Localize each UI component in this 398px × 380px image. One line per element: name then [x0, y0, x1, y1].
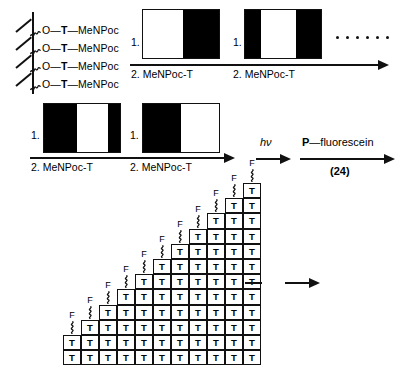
dash-icon — [245, 282, 262, 284]
mask-segment-open — [181, 104, 219, 152]
squiggle-linker-icon — [139, 259, 150, 276]
array-cell: T — [117, 320, 135, 335]
compound-number-label: (24) — [330, 165, 350, 177]
fluorescein-cap-label: F — [137, 250, 151, 259]
reaction-arrow-icon — [378, 60, 389, 70]
array-cell: T — [153, 350, 171, 365]
mask-segment-blocked — [108, 104, 120, 152]
fluorescein-cap-label: F — [191, 205, 205, 214]
fluorescein-cap-label: F — [155, 235, 169, 244]
array-cell: T — [207, 244, 225, 259]
array-cell: T — [207, 335, 225, 350]
support-chain-label: O—T—MeNPoc — [42, 25, 119, 36]
reaction-rule-row-2 — [30, 157, 226, 159]
mask-segment-open — [77, 104, 107, 152]
fluorescein-cap-label: F — [209, 189, 223, 198]
array-cell: T — [225, 229, 243, 244]
photolithographic-mask — [142, 103, 220, 153]
array-cell: T — [153, 274, 171, 289]
reaction-arrow-icon — [224, 153, 235, 163]
solid-support-structure: O—T—MeNPoc O—T—MeNPoc O—T—MeNPoc O—T—MeN… — [8, 12, 128, 94]
array-cell: T — [189, 244, 207, 259]
array-cell: T — [225, 213, 243, 228]
support-chain-row: O—T—MeNPoc — [30, 58, 119, 74]
array-cell: T — [135, 350, 153, 365]
array-cell: T — [135, 305, 153, 320]
array-cell: T — [243, 289, 261, 304]
squiggle-linker-icon — [247, 168, 258, 185]
mask-segment-blocked — [245, 10, 261, 58]
squiggle-linker-icon — [103, 290, 114, 307]
reaction-arrow-icon — [280, 154, 291, 164]
support-chain-label: O—T—MeNPoc — [42, 79, 119, 90]
array-cell: T — [225, 350, 243, 365]
squiggle-linker-icon — [175, 229, 186, 246]
photolysis-label: hν — [260, 136, 272, 148]
array-cell: T — [99, 335, 117, 350]
fluorescein-cap-label: F — [101, 281, 115, 290]
array-cell: T — [189, 274, 207, 289]
step-4-number: 1. — [130, 129, 139, 141]
array-cell: T — [171, 305, 189, 320]
array-cell: T — [117, 350, 135, 365]
step-4-reagent: 2. MeNPoc-T — [130, 161, 192, 173]
mask-segment-open — [143, 10, 183, 58]
step-1-reagent: 2. MeNPoc-T — [131, 68, 193, 80]
step-1-number: 1. — [131, 36, 140, 48]
array-cell: T — [243, 350, 261, 365]
squiggle-linker-icon — [229, 183, 240, 200]
squiggle-linker-icon — [30, 43, 41, 53]
array-cell: T — [189, 320, 207, 335]
array-cell: T — [225, 274, 243, 289]
array-cell: T — [171, 274, 189, 289]
fluorescein-text: —fluorescein — [309, 136, 373, 148]
array-column-cap: F — [155, 235, 169, 262]
fluorescein-cap-label: F — [65, 311, 79, 320]
array-column-cap: F — [137, 250, 151, 277]
array-cell: T — [99, 320, 117, 335]
fluorescein-cap-label: F — [227, 174, 241, 183]
result-arrow-shaft — [285, 282, 311, 284]
array-cell: T — [225, 244, 243, 259]
squiggle-linker-icon — [211, 198, 222, 215]
squiggle-linker-icon — [121, 274, 132, 291]
array-cell: T — [171, 320, 189, 335]
array-cell: T — [243, 305, 261, 320]
array-cell: T — [225, 320, 243, 335]
ellipsis-dots-icon — [336, 36, 389, 39]
array-cell: T — [243, 213, 261, 228]
array-column-cap: F — [173, 220, 187, 247]
support-chain-label: O—T—MeNPoc — [42, 43, 119, 54]
array-cell: T — [207, 274, 225, 289]
array-cell: T — [243, 198, 261, 213]
staircase-oligonucleotide-array: TTFTTTFTTTTFTTTTTFTTTTTTFTTTTTTTFTTTTTTT… — [63, 183, 261, 365]
mask-segment-open — [261, 10, 296, 58]
fluorescein-cap-label: F — [119, 265, 133, 274]
array-cell: T — [243, 244, 261, 259]
photolithographic-mask — [43, 103, 121, 153]
array-cell: T — [81, 350, 99, 365]
mask-segment-blocked — [143, 104, 181, 152]
array-cell: T — [153, 305, 171, 320]
mask-segment-blocked — [296, 10, 321, 58]
squiggle-linker-icon — [30, 61, 41, 71]
step-3-reagent: 2. MeNPoc-T — [31, 161, 93, 173]
array-cell: T — [81, 335, 99, 350]
array-cell: T — [207, 305, 225, 320]
fluorescein-cap-label: F — [173, 220, 187, 229]
step-2-number: 1. — [233, 36, 242, 48]
array-cell: T — [99, 350, 117, 365]
squiggle-linker-icon — [30, 79, 41, 89]
array-cell: T — [135, 289, 153, 304]
array-cell: T — [117, 335, 135, 350]
array-cell: T — [153, 335, 171, 350]
array-column-cap: F — [65, 311, 79, 338]
step-2-reagent: 2. MeNPoc-T — [233, 68, 295, 80]
squiggle-linker-icon — [85, 305, 96, 322]
squiggle-linker-icon — [67, 320, 78, 337]
fluorescein-cap-label: F — [83, 296, 97, 305]
array-cell: T — [225, 305, 243, 320]
photolysis-arrow-shaft — [256, 158, 282, 160]
array-cell: T — [243, 335, 261, 350]
fluorescein-reagent-label: P—fluorescein — [302, 136, 374, 148]
